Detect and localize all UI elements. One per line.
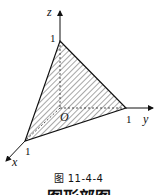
x-intercept-label: 1 — [25, 145, 31, 157]
figure-caption: 图 11-4-4 — [0, 170, 157, 185]
y-intercept-label: 1 — [126, 113, 132, 125]
hatched-triangle — [25, 41, 126, 141]
z-intercept-label: 1 — [50, 32, 56, 44]
y-axis-label: y — [142, 112, 149, 126]
coordinate-diagram: z 1 y 1 x 1 O — [0, 0, 157, 195]
x-axis-label: x — [11, 155, 18, 169]
cutoff-heading: 图形部图 — [0, 187, 157, 195]
origin-label: O — [60, 110, 69, 124]
z-axis-label: z — [46, 5, 52, 19]
